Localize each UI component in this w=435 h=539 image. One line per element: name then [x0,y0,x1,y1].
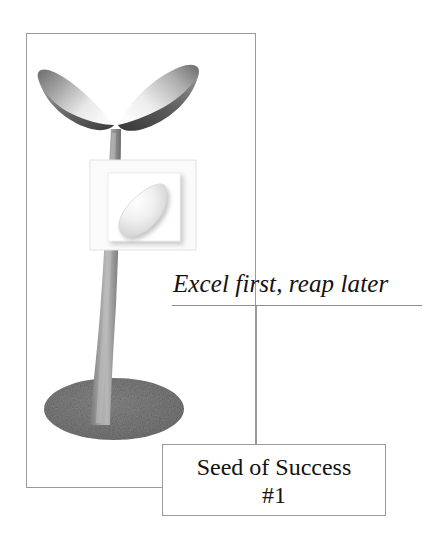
caption-title: Seed of Success [197,453,352,481]
caption-box: Seed of Success #1 [162,444,386,516]
poster-canvas: Excel first, reap later Seed of Success … [0,0,435,539]
left-leaf [38,70,114,131]
soil-mound [44,378,184,440]
tagline-rule [172,305,422,306]
tagline-block: Excel first, reap later [171,268,423,310]
caption-number: #1 [262,481,286,509]
tagline-text: Excel first, reap later [173,268,388,299]
connector-line [256,306,257,444]
seedling-illustration [26,33,256,488]
right-leaf [118,65,199,131]
